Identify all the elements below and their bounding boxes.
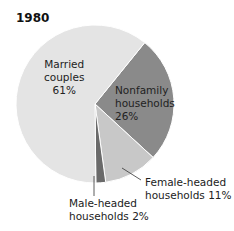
label-line: Nonfamily — [115, 84, 175, 97]
label-line: households 2% — [69, 210, 149, 223]
male-headed-label: Male-headed households 2% — [69, 197, 149, 223]
label-line: Male-headed — [69, 197, 149, 210]
label-line: Married — [44, 58, 84, 71]
label-line: households — [115, 97, 175, 110]
female-headed-label: Female-headed households 11% — [145, 176, 231, 202]
label-line: 26% — [115, 110, 175, 123]
nonfamily-label: Nonfamily households 26% — [115, 84, 175, 123]
label-line: Female-headed — [145, 176, 231, 189]
married-couples-label: Married couples 61% — [44, 58, 84, 97]
label-line: 61% — [44, 84, 84, 97]
label-line: couples — [44, 71, 84, 84]
label-line: households 11% — [145, 189, 231, 202]
